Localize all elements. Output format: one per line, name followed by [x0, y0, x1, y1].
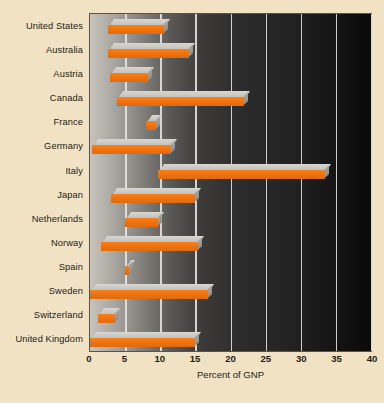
bar-row	[90, 134, 371, 158]
bar-row	[90, 38, 371, 62]
range-bar	[98, 314, 114, 323]
bar-row	[90, 158, 371, 182]
category-label: Australia	[0, 38, 88, 62]
bar-front-face	[158, 170, 325, 179]
bar-row	[90, 327, 371, 351]
range-bar	[108, 25, 164, 34]
bar-side-face	[195, 189, 199, 201]
range-bar	[117, 97, 244, 106]
bar-side-face	[129, 261, 133, 273]
bar-row	[90, 255, 371, 279]
range-bar	[108, 49, 189, 58]
bar-front-face	[101, 242, 198, 251]
bar-side-face	[171, 141, 175, 153]
bar-front-face	[90, 338, 195, 347]
category-label: United Kingdom	[0, 327, 88, 351]
bar-front-face	[125, 218, 158, 227]
x-tick-label: 20	[225, 353, 236, 364]
gridline	[371, 14, 372, 351]
category-label: Norway	[0, 231, 88, 255]
plot-area	[89, 13, 372, 352]
bar-row	[90, 86, 371, 110]
bar-front-face	[98, 314, 114, 323]
bar-row	[90, 183, 371, 207]
bar-side-face	[158, 213, 162, 225]
x-tick-label: 30	[296, 353, 307, 364]
value-axis-ticks: 0510152025303540	[89, 353, 372, 367]
bar-row	[90, 14, 371, 38]
x-tick-label: 15	[190, 353, 201, 364]
category-axis-labels: United States Australia Austria Canada F…	[0, 14, 88, 351]
bar-row	[90, 110, 371, 134]
bar-front-face	[90, 290, 208, 299]
range-bar	[110, 73, 148, 82]
range-bar	[125, 218, 158, 227]
bar-row	[90, 279, 371, 303]
x-tick-label: 10	[154, 353, 165, 364]
category-label: Netherlands	[0, 207, 88, 231]
x-tick-label: 40	[367, 353, 378, 364]
category-label: Canada	[0, 86, 88, 110]
bar-row	[90, 303, 371, 327]
bar-side-face	[189, 44, 193, 56]
bar-side-face	[164, 20, 168, 32]
category-label: Japan	[0, 183, 88, 207]
range-bar	[90, 338, 195, 347]
category-label: Austria	[0, 62, 88, 86]
bar-row	[90, 207, 371, 231]
x-tick-label: 35	[331, 353, 342, 364]
range-bar	[125, 266, 129, 275]
bar-front-face	[108, 49, 189, 58]
bar-front-face	[125, 266, 129, 275]
category-label: Spain	[0, 255, 88, 279]
bar-row	[90, 62, 371, 86]
x-tick-label: 5	[122, 353, 127, 364]
bar-front-face	[117, 97, 244, 106]
bar-side-face	[195, 333, 199, 345]
category-label: Germany	[0, 134, 88, 158]
bar-side-face	[244, 93, 248, 105]
bar-row	[90, 231, 371, 255]
range-bar	[92, 145, 171, 154]
range-bar	[146, 121, 156, 130]
bar-side-face	[325, 165, 329, 177]
bar-front-face	[111, 194, 195, 203]
bar-side-face	[156, 117, 160, 129]
bar-side-face	[198, 237, 202, 249]
chart-page: United States Australia Austria Canada F…	[0, 0, 384, 403]
bar-front-face	[146, 121, 156, 130]
bar-rows	[90, 14, 371, 351]
category-label: Switzerland	[0, 303, 88, 327]
range-bar	[101, 242, 198, 251]
category-label: France	[0, 110, 88, 134]
bar-front-face	[108, 25, 164, 34]
x-axis-title: Percent of GNP	[89, 369, 372, 380]
bar-side-face	[208, 285, 212, 297]
bar-front-face	[110, 73, 148, 82]
x-tick-label: 0	[86, 353, 91, 364]
x-tick-label: 25	[261, 353, 272, 364]
category-label: Sweden	[0, 279, 88, 303]
bar-side-face	[115, 309, 119, 321]
category-label: United States	[0, 14, 88, 38]
category-label: Italy	[0, 158, 88, 182]
plot-background	[90, 14, 371, 351]
bar-front-face	[92, 145, 171, 154]
range-bar	[90, 290, 208, 299]
bar-side-face	[148, 69, 152, 81]
range-bar	[158, 170, 325, 179]
range-bar	[111, 194, 195, 203]
